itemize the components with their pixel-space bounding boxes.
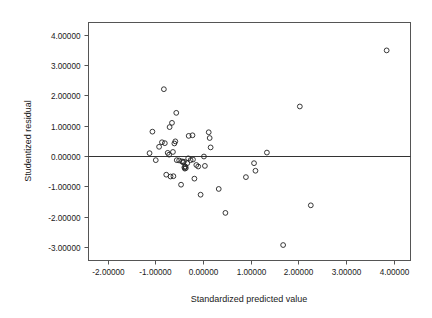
- y-tick-label: 1.00000: [51, 123, 81, 132]
- scatter-point: [216, 187, 221, 192]
- scatter-point: [174, 110, 179, 115]
- scatter-point: [223, 211, 228, 216]
- x-axis-tick-labels: -2.00000-1.000000.000001.000002.000003.0…: [92, 268, 409, 277]
- scatter-point: [244, 175, 249, 180]
- y-tick-label: 4.00000: [51, 32, 81, 41]
- scatter-point: [192, 176, 197, 181]
- scatter-point: [281, 243, 286, 248]
- scatter-point: [150, 129, 155, 134]
- x-tick-label: 1.00000: [237, 268, 267, 277]
- scatter-point: [161, 87, 166, 92]
- scatter-point: [147, 151, 152, 156]
- scatter-plot-figure: -2.00000-1.000000.000001.000002.000003.0…: [0, 0, 432, 318]
- y-axis-title: Studentized residual: [23, 100, 33, 182]
- y-axis-tick-labels: -3.00000-2.00000-1.000000.000001.000002.…: [48, 32, 81, 253]
- data-point-series: [147, 48, 389, 247]
- scatter-point: [162, 141, 167, 146]
- scatter-point: [207, 136, 212, 141]
- scatter-point: [297, 104, 302, 109]
- y-tick-label: 3.00000: [51, 62, 81, 71]
- scatter-point: [157, 144, 162, 149]
- x-tick-label: 2.00000: [284, 268, 314, 277]
- x-tick-label: -2.00000: [92, 268, 125, 277]
- scatter-point: [170, 120, 175, 125]
- plot-frame: [89, 23, 411, 261]
- scatter-point: [179, 182, 184, 187]
- scatter-point: [208, 145, 213, 150]
- scatter-point: [308, 203, 313, 208]
- y-tick-label: -3.00000: [48, 244, 81, 253]
- x-axis-ticks: [109, 261, 395, 265]
- scatter-point: [198, 192, 203, 197]
- x-axis-title: Standardized predicted value: [191, 294, 308, 304]
- scatter-point: [252, 161, 257, 166]
- scatter-point: [160, 140, 165, 145]
- y-tick-label: 2.00000: [51, 92, 81, 101]
- scatter-point: [253, 168, 258, 173]
- y-axis-ticks: [85, 36, 89, 248]
- y-tick-label: -2.00000: [48, 214, 81, 223]
- scatter-point: [265, 150, 270, 155]
- x-tick-label: 3.00000: [332, 268, 362, 277]
- scatter-point: [171, 150, 176, 155]
- x-tick-label: 4.00000: [380, 268, 410, 277]
- scatter-point: [384, 48, 389, 53]
- plot-canvas: -2.00000-1.000000.000001.000002.000003.0…: [0, 0, 432, 318]
- scatter-point: [203, 164, 208, 169]
- scatter-point: [153, 158, 158, 163]
- scatter-point: [171, 174, 176, 179]
- scatter-point: [206, 130, 211, 135]
- x-tick-label: 0.00000: [189, 268, 219, 277]
- y-tick-label: -1.00000: [48, 183, 81, 192]
- x-tick-label: -1.00000: [139, 268, 172, 277]
- y-tick-label: 0.00000: [51, 153, 81, 162]
